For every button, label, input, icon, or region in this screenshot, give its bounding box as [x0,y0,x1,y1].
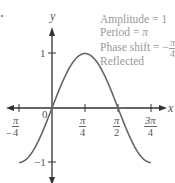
origin-label: 0 [42,108,48,120]
x-tick-label-3pi4: 3π4 [144,115,157,138]
x-axis-left-arrow-icon [6,105,14,111]
annotation-phase-shift: Phase shift = −π4 [100,38,175,55]
x-axis-right-arrow-icon [159,105,167,111]
x-tick-label-pi4: π4 [79,115,86,138]
y-tick-label-neg1: −1 [34,156,46,168]
annotation-period: Period = π [100,26,175,39]
chart-figure: y x 0 1 −1 −π4 π4 π2 3π4 Amplitude = 1 P… [0,0,175,183]
y-axis-down-arrow-icon [49,177,55,183]
y-axis-up-arrow-icon [49,27,55,36]
marker-dot [1,15,3,17]
annotation-amplitude: Amplitude = 1 [100,13,175,26]
annotation-block: Amplitude = 1 Period = π Phase shift = −… [100,13,175,68]
y-tick-label-1: 1 [40,47,46,59]
annotation-reflected: Reflected [100,55,175,68]
x-axis-label: x [167,101,174,115]
x-tick-label-pi2: π2 [113,115,120,138]
x-tick-label-neg-pi4: −π4 [6,115,19,139]
y-axis-label: y [49,9,56,23]
